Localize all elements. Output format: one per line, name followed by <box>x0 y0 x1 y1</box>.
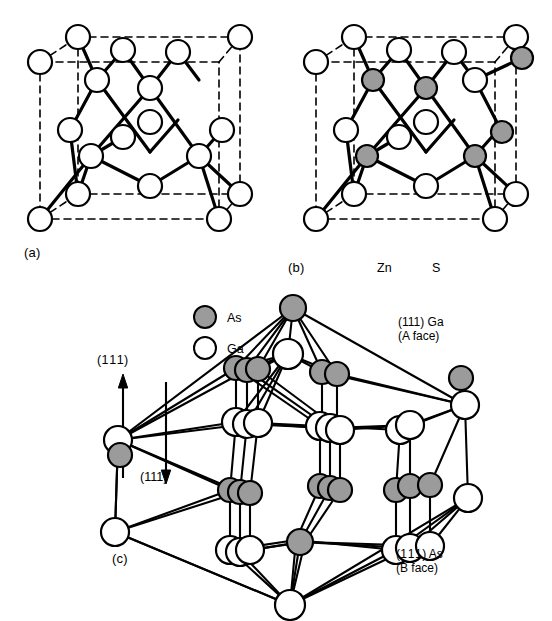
face-b-species: As <box>429 547 443 561</box>
overbar-seg: 1 <box>109 353 117 367</box>
overbar-seg: 1 <box>400 548 407 562</box>
atom-zn <box>464 145 486 167</box>
atom-s <box>483 207 507 231</box>
atom-s <box>414 110 438 134</box>
atom-as <box>449 366 473 390</box>
atom-ga <box>396 411 424 439</box>
atom-ga <box>236 536 264 564</box>
legend-markers-c <box>194 306 216 359</box>
atom-s <box>342 25 366 49</box>
miller-index-up: (111) <box>97 353 128 367</box>
atom-s <box>304 207 328 231</box>
atom-zn <box>415 77 437 99</box>
legend-swatch-as <box>194 306 216 328</box>
face-b-line1: (111) As <box>396 548 443 562</box>
atom-s <box>334 118 358 142</box>
atom-as <box>328 478 352 502</box>
atom-a <box>210 118 234 142</box>
atom-a <box>228 182 252 206</box>
atom-a <box>28 207 52 231</box>
atom-a <box>111 38 135 62</box>
panel-a-diagram <box>0 0 276 250</box>
atom-as <box>238 481 262 505</box>
atom-s <box>387 125 411 149</box>
legend-label-as: As <box>227 311 242 325</box>
legend-label-ga: Ga <box>227 342 244 356</box>
legend-swatch-ga <box>194 337 216 359</box>
legend-label-zn: Zn <box>377 261 392 275</box>
overbar-seg: 1 <box>116 353 124 367</box>
atom-a <box>66 182 90 206</box>
atom-ga <box>273 339 303 369</box>
atom-a <box>79 144 103 168</box>
face-b-line2: (B face) <box>396 562 443 576</box>
atom-as <box>246 357 270 381</box>
overbar-seg: 1 <box>101 353 109 367</box>
atom-a <box>66 25 90 49</box>
atom-a <box>138 110 162 134</box>
atom-zn <box>511 47 533 69</box>
atom-ga <box>275 590 305 620</box>
atom-as <box>418 473 442 497</box>
atom-s <box>387 38 411 62</box>
atom-a <box>85 68 109 92</box>
direction-label-up: (111) <box>97 353 128 367</box>
figure-root: (a) (b) (c) Zn S As Ga (111) (111) (111)… <box>0 0 552 621</box>
atom-a <box>187 144 211 168</box>
atom-a <box>111 125 135 149</box>
atom-ga <box>451 391 479 419</box>
panel-c-caption: (c) <box>112 551 128 566</box>
atom-as <box>325 362 349 386</box>
atom-s <box>442 40 466 64</box>
atom-s <box>414 174 438 198</box>
atom-as <box>287 529 313 555</box>
direction-label-down: (111) <box>140 470 167 484</box>
atoms-b <box>304 25 533 231</box>
atom-a <box>166 40 190 64</box>
atom-s <box>342 182 366 206</box>
atom-ga <box>244 409 272 437</box>
legend-label-s: S <box>432 261 440 275</box>
atom-s <box>463 68 487 92</box>
atom-ga <box>101 518 129 546</box>
panel-b-caption: (b) <box>288 260 305 275</box>
atom-ga <box>454 484 482 512</box>
atom-a <box>58 118 82 142</box>
panel-a-caption: (a) <box>24 245 41 260</box>
atom-as <box>108 443 132 467</box>
atom-a <box>138 174 162 198</box>
atom-a <box>28 50 52 74</box>
atom-zn <box>362 69 384 91</box>
atom-ga <box>326 416 354 444</box>
overbar-seg: 1 <box>407 548 414 562</box>
face-label-a: (111) Ga (A face) <box>398 316 444 343</box>
atom-zn <box>356 145 378 167</box>
atom-zn <box>491 121 513 143</box>
atom-a <box>228 25 252 49</box>
atom-s <box>304 50 328 74</box>
panel-b-diagram <box>276 0 552 250</box>
atom-a <box>138 76 162 100</box>
overbar-seg: 1 <box>415 548 422 562</box>
face-a-line1: (111) Ga <box>398 316 444 330</box>
miller-index-bottom: (111) <box>396 548 426 562</box>
face-a-line2: (A face) <box>398 330 444 344</box>
face-label-b: (111) As (B face) <box>396 548 443 575</box>
atom-s <box>504 182 528 206</box>
panel-c-diagram <box>0 250 552 621</box>
atom-s <box>504 25 528 49</box>
atom-as <box>280 295 306 321</box>
atom-a <box>207 207 231 231</box>
